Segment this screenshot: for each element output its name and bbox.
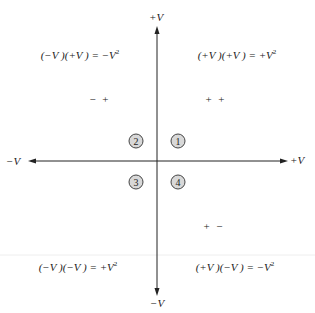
equation-quadrant-3: (−V )(−V ) = +V2 (39, 262, 118, 273)
signs-quadrant-1: + + (205, 94, 226, 105)
equation-quadrant-2: (−V )(+V ) = −V2 (41, 50, 120, 61)
equation-quadrant-4: (+V )(−V ) = −V2 (196, 262, 275, 273)
quadrant-badge-3: 3 (129, 175, 144, 190)
x-axis-left-label: −V (6, 156, 20, 167)
arrow-down-icon (155, 288, 160, 296)
y-axis-bottom-label: −V (150, 298, 164, 309)
arrow-right-icon (280, 159, 288, 164)
x-axis-right-label: +V (290, 155, 304, 166)
signs-quadrant-2: − + (89, 94, 110, 105)
quadrant-badge-4: 4 (171, 175, 186, 190)
quadrant-badge-1: 1 (171, 134, 186, 149)
equation-quadrant-1: (+V )(+V ) = +V2 (198, 50, 277, 61)
quadrant-badge-2: 2 (129, 134, 144, 149)
signs-quadrant-4: + − (203, 221, 224, 232)
arrow-up-icon (155, 26, 160, 34)
arrow-left-icon (28, 159, 36, 164)
y-axis-top-label: +V (149, 12, 163, 23)
